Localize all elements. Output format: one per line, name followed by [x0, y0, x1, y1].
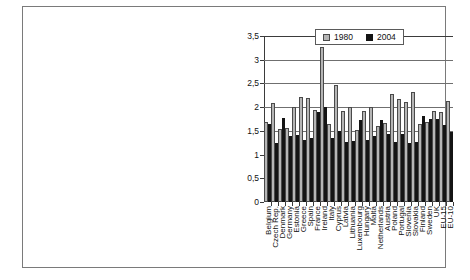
bar-series-container	[264, 36, 453, 202]
bar-group	[425, 36, 432, 202]
bar-group	[327, 36, 334, 202]
legend-label-2004: 2004	[377, 32, 396, 42]
bar-group	[369, 36, 376, 202]
bar-group	[432, 36, 439, 202]
plot-area: 00,511,522,533,5	[264, 36, 453, 202]
y-tick-label: 0,5	[247, 173, 259, 183]
y-tick-label: 0	[254, 197, 259, 207]
y-tick-label: 3	[254, 55, 259, 65]
bar-group	[397, 36, 404, 202]
bar-group	[320, 36, 327, 202]
bar-group	[271, 36, 278, 202]
x-axis-labels: BelgiumCzech Rep.DenmarkGermanyEstoniaGr…	[264, 204, 453, 276]
bar-group	[341, 36, 348, 202]
legend-item-1980: 1980	[323, 32, 353, 42]
y-tick-mark	[260, 202, 264, 203]
bar-group	[418, 36, 425, 202]
chart-frame: 00,511,522,533,5 BelgiumCzech Rep.Denmar…	[22, 6, 446, 268]
bar-group	[446, 36, 453, 202]
bar-group	[404, 36, 411, 202]
y-tick-label: 3,5	[247, 31, 259, 41]
bar-group	[299, 36, 306, 202]
x-axis-label: EU-10	[446, 204, 453, 276]
bar-group	[390, 36, 397, 202]
legend-label-1980: 1980	[334, 32, 353, 42]
bar-group	[285, 36, 292, 202]
y-tick-label: 2	[254, 102, 259, 112]
chart-legend: 1980 2004	[315, 29, 404, 45]
bar-group	[383, 36, 390, 202]
y-tick-label: 1	[254, 150, 259, 160]
bar-group	[334, 36, 341, 202]
bar-group	[306, 36, 313, 202]
bar-group	[355, 36, 362, 202]
legend-swatch-2004	[366, 34, 373, 41]
bar-group	[411, 36, 418, 202]
x-axis-label-text: EU-10	[445, 206, 454, 229]
legend-swatch-1980	[323, 34, 330, 41]
bar-group	[362, 36, 369, 202]
bar-group	[313, 36, 320, 202]
bar-group	[348, 36, 355, 202]
bar-group	[439, 36, 446, 202]
bar-group	[278, 36, 285, 202]
y-tick-label: 2,5	[247, 78, 259, 88]
legend-item-2004: 2004	[366, 32, 396, 42]
bar-group	[376, 36, 383, 202]
bar-group	[292, 36, 299, 202]
bar-2004-eu-10	[450, 132, 453, 202]
y-tick-label: 1,5	[247, 126, 259, 136]
bar-group	[264, 36, 271, 202]
